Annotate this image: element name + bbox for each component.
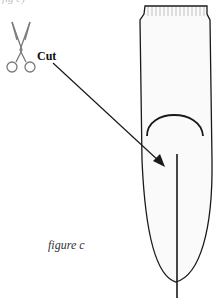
pattern-diagram <box>0 0 222 301</box>
figure-caption: figure c <box>48 238 85 253</box>
cut-label: Cut <box>37 49 56 64</box>
garment-outline <box>140 6 212 282</box>
scissors-icon <box>7 22 35 72</box>
